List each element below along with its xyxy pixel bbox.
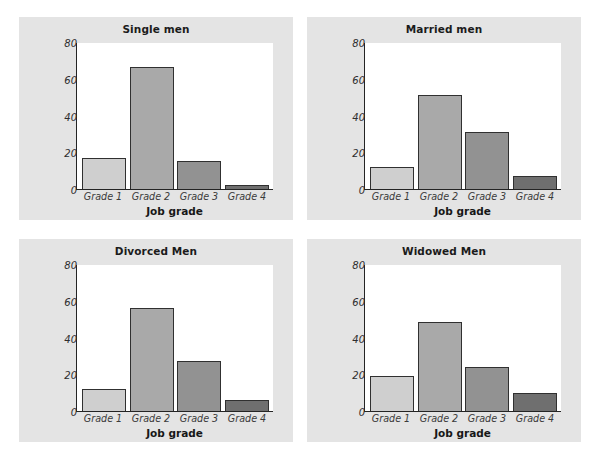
x-axis-tick-label: Grade 3: [463, 413, 511, 424]
figure-canvas: Single menPercent of subjects020406080Gr…: [0, 0, 599, 459]
y-axis-tick-label: 0: [43, 185, 77, 196]
bar: [82, 389, 126, 411]
y-axis-tick-label: 60: [331, 74, 365, 85]
bar: [370, 167, 414, 189]
plot-frame: 020406080: [364, 43, 561, 190]
x-axis-tick-label: Grade 4: [511, 191, 559, 202]
x-axis-tick-label: Grade 1: [367, 413, 415, 424]
y-axis-tick-label: 60: [43, 296, 77, 307]
y-axis-tick-label: 20: [331, 370, 365, 381]
panel-title: Married men: [307, 23, 581, 35]
x-axis-tick-label: Grade 2: [127, 413, 175, 424]
panel-title: Widowed Men: [307, 245, 581, 257]
x-axis-tick-label: Grade 4: [223, 413, 271, 424]
chart-panel: Married menPercent of subjects020406080G…: [307, 17, 581, 220]
x-axis-tick-label: Grade 4: [223, 191, 271, 202]
chart-panel: Widowed MenPercent of subjects020406080G…: [307, 239, 581, 442]
chart-panel: Divorced MenPercent of subjects020406080…: [19, 239, 293, 442]
x-axis-tick-label: Grade 3: [175, 413, 223, 424]
y-axis-tick-label: 0: [43, 407, 77, 418]
x-axis-tick-labels: Grade 1Grade 2Grade 3Grade 4: [76, 191, 273, 202]
plot-area: Percent of subjects020406080Grade 1Grade…: [364, 43, 561, 192]
y-axis-tick-label: 20: [43, 370, 77, 381]
bar: [513, 176, 557, 189]
bar-series: [365, 265, 561, 411]
bar: [225, 185, 269, 189]
x-axis-tick-label: Grade 3: [463, 191, 511, 202]
y-axis-tick-label: 20: [43, 148, 77, 159]
y-axis-tick-label: 40: [331, 333, 365, 344]
x-axis-tick-label: Grade 2: [415, 413, 463, 424]
y-axis-tick-label: 40: [43, 111, 77, 122]
x-axis-tick-label: Grade 2: [127, 191, 175, 202]
y-axis-tick-label: 80: [331, 38, 365, 49]
plot-area: Percent of subjects020406080Grade 1Grade…: [76, 43, 273, 192]
x-axis-label: Job grade: [76, 205, 273, 217]
y-axis-tick-label: 40: [331, 111, 365, 122]
bar: [177, 361, 221, 411]
plot-area: Percent of subjects020406080Grade 1Grade…: [76, 265, 273, 414]
panel-title: Single men: [19, 23, 293, 35]
bar: [130, 67, 174, 189]
x-axis-label: Job grade: [364, 205, 561, 217]
y-axis-tick-label: 40: [43, 333, 77, 344]
panel-title: Divorced Men: [19, 245, 293, 257]
x-axis-tick-label: Grade 2: [415, 191, 463, 202]
y-axis-tick-label: 80: [43, 260, 77, 271]
bar-series: [365, 43, 561, 189]
panel-grid: Single menPercent of subjects020406080Gr…: [19, 17, 581, 442]
bar: [465, 132, 509, 189]
x-axis-tick-labels: Grade 1Grade 2Grade 3Grade 4: [364, 191, 561, 202]
bar: [130, 308, 174, 411]
bar: [370, 376, 414, 411]
plot-frame: 020406080: [76, 265, 273, 412]
x-axis-tick-label: Grade 1: [79, 191, 127, 202]
bar-series: [77, 265, 273, 411]
bar: [177, 161, 221, 189]
bar-series: [77, 43, 273, 189]
x-axis-tick-label: Grade 3: [175, 191, 223, 202]
chart-panel: Single menPercent of subjects020406080Gr…: [19, 17, 293, 220]
y-axis-tick-label: 20: [331, 148, 365, 159]
plot-frame: 020406080: [364, 265, 561, 412]
plot-frame: 020406080: [76, 43, 273, 190]
bar: [418, 95, 462, 189]
x-axis-tick-labels: Grade 1Grade 2Grade 3Grade 4: [76, 413, 273, 424]
y-axis-tick-label: 0: [331, 185, 365, 196]
y-axis-tick-label: 0: [331, 407, 365, 418]
bar: [418, 322, 462, 411]
bar: [465, 367, 509, 411]
y-axis-tick-label: 60: [331, 296, 365, 307]
bar: [513, 393, 557, 411]
x-axis-tick-label: Grade 4: [511, 413, 559, 424]
x-axis-label: Job grade: [76, 427, 273, 439]
plot-area: Percent of subjects020406080Grade 1Grade…: [364, 265, 561, 414]
y-axis-tick-label: 60: [43, 74, 77, 85]
y-axis-tick-label: 80: [43, 38, 77, 49]
y-axis-tick-label: 80: [331, 260, 365, 271]
x-axis-tick-labels: Grade 1Grade 2Grade 3Grade 4: [364, 413, 561, 424]
x-axis-tick-label: Grade 1: [367, 191, 415, 202]
x-axis-tick-label: Grade 1: [79, 413, 127, 424]
x-axis-label: Job grade: [364, 427, 561, 439]
bar: [225, 400, 269, 411]
bar: [82, 158, 126, 189]
